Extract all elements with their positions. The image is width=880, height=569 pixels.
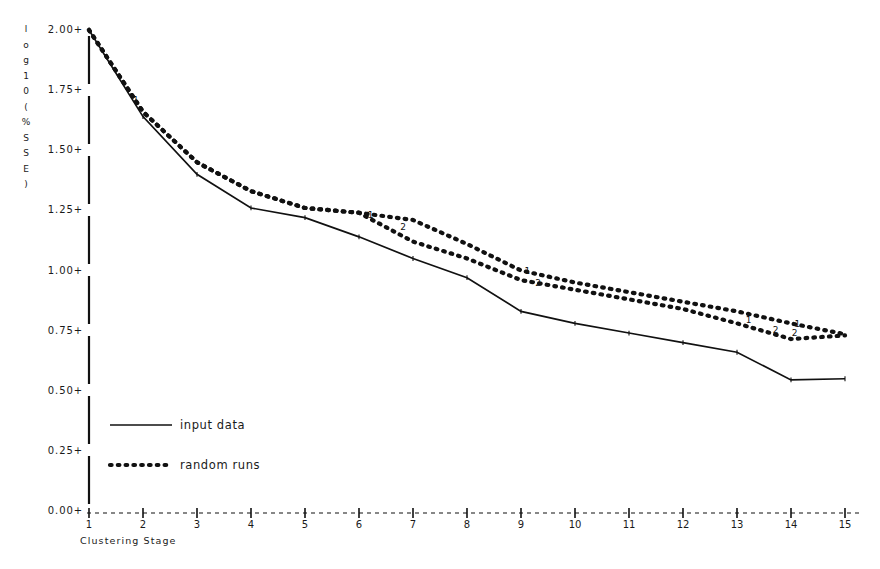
chart-container: log10(%SSE) 0.00+0.25+0.50+0.75+1.00+1.2… (0, 0, 880, 569)
series-line-random-runs-2 (89, 30, 845, 339)
series-line-random-runs-1 (89, 30, 845, 334)
plot-area (0, 0, 880, 569)
series-line-input-data (89, 30, 845, 380)
